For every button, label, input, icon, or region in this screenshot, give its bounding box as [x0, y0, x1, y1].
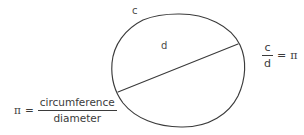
ratio-denominator: d	[262, 56, 273, 69]
definition-denominator: diameter	[51, 111, 103, 124]
definition-fraction: circumference diameter	[38, 97, 117, 123]
definition-numerator: circumference	[38, 97, 117, 110]
ratio-fraction: c d	[262, 42, 273, 69]
pi-symbol: π	[14, 105, 21, 116]
pi-result-symbol: π	[290, 50, 297, 61]
pi-ratio-equation: c d = π	[262, 42, 297, 69]
diagram-canvas: c d π = circumference diameter c d = π	[0, 0, 304, 135]
circumference-label: c	[132, 6, 138, 16]
diameter-line	[118, 44, 238, 92]
ratio-numerator: c	[262, 42, 272, 55]
equals-operator: =	[277, 50, 286, 61]
pi-definition-equation: π = circumference diameter	[14, 97, 117, 123]
circle-outline	[112, 14, 245, 127]
diameter-label: d	[161, 41, 167, 51]
equals-operator: =	[25, 105, 34, 116]
